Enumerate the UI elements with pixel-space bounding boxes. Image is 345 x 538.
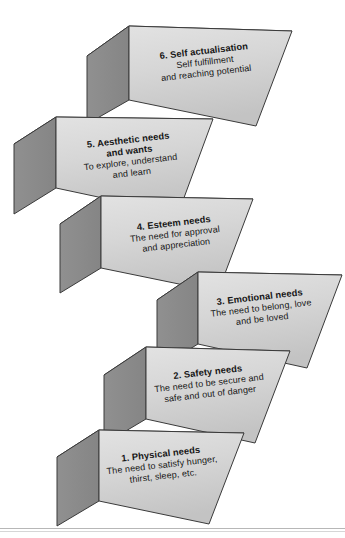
diagram-canvas: 6. Self actualisation Self fulfillment a… <box>0 0 345 538</box>
block-1-side-face <box>57 430 99 526</box>
step-block-1-physical-needs[interactable]: 1. Physical needs The need to satisfy hu… <box>0 0 345 538</box>
bottom-divider-rule <box>0 528 345 529</box>
block-1-front-face <box>99 430 244 524</box>
bottom-divider-rule-secondary <box>0 531 345 532</box>
